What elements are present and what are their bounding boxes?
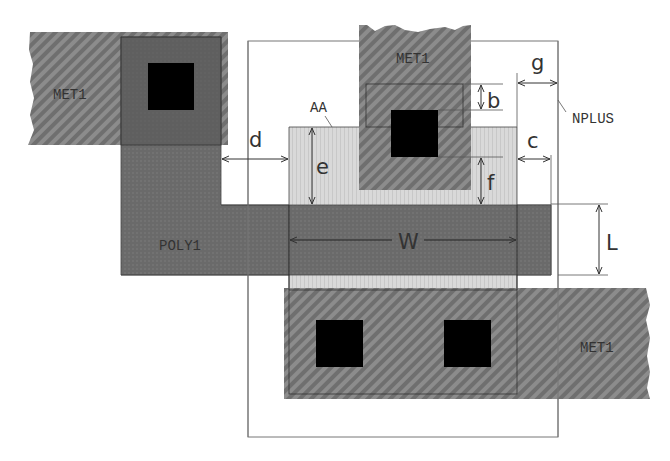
contact-source-2 bbox=[444, 320, 491, 367]
active-area-lower bbox=[289, 275, 517, 290]
met1-top bbox=[359, 25, 471, 190]
dim-b: b bbox=[487, 89, 500, 113]
dim-l: L bbox=[606, 231, 618, 255]
label-poly1: POLY1 bbox=[159, 238, 201, 254]
contact-drain bbox=[391, 110, 438, 157]
label-met1-bottom: MET1 bbox=[580, 340, 614, 356]
dim-d: d bbox=[249, 128, 262, 152]
dim-g: g bbox=[531, 51, 544, 75]
label-active-area: AA bbox=[310, 100, 327, 116]
dim-e: e bbox=[316, 155, 329, 179]
label-nplus: NPLUS bbox=[572, 111, 614, 127]
dim-c: c bbox=[527, 129, 539, 153]
label-met1-top: MET1 bbox=[396, 51, 430, 67]
dim-f: f bbox=[487, 171, 495, 195]
label-met1-left: MET1 bbox=[53, 87, 87, 103]
contact-source-1 bbox=[316, 320, 363, 367]
dim-w: W bbox=[398, 230, 419, 254]
layout-diagram: MET1 MET1 MET1 AA POLY1 NPLUS b g c f e … bbox=[0, 0, 670, 461]
contact-poly bbox=[148, 63, 194, 110]
